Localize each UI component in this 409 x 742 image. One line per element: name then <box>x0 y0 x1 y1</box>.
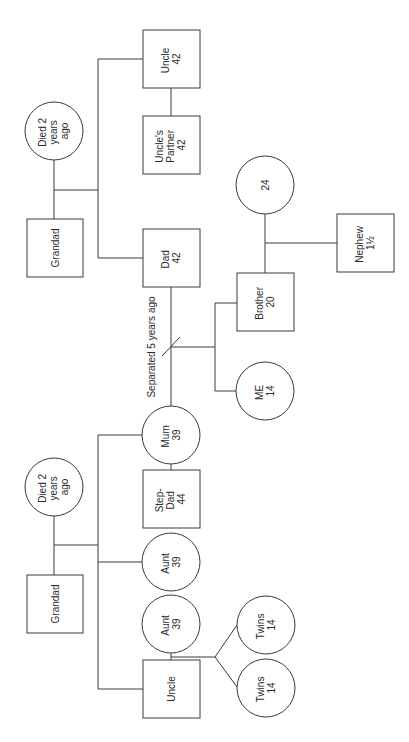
person-mum: Mum 39 <box>142 406 200 464</box>
svg-text:Grandad: Grandad <box>50 585 61 624</box>
person-aunt-2: Aunt 39 <box>142 595 200 653</box>
person-nephew: Nephew 1½ <box>337 214 394 272</box>
person-twin-2: Twins 14 <box>237 659 295 717</box>
person-dad: Dad 42 <box>143 229 200 287</box>
svg-text:24: 24 <box>260 179 271 191</box>
person-grandmother-maternal: Died 2 years ago <box>25 458 83 516</box>
separation-label: Separated 5 years ago <box>146 296 157 398</box>
person-uncles-partner: Uncle's Partner 42 <box>143 116 200 174</box>
person-step-dad: Step- Dad 44 <box>143 470 200 528</box>
person-aunt-1: Aunt 39 <box>142 533 200 591</box>
svg-text:Grandad: Grandad <box>50 229 61 268</box>
person-twin-1: Twins 14 <box>237 596 295 654</box>
person-uncle-paternal: Uncle 42 <box>143 30 200 88</box>
person-uncle-maternal: Uncle <box>143 660 200 718</box>
genogram-canvas: Separated 5 years ago Grandad Died 2 yea… <box>0 0 409 742</box>
person-grandmother-paternal: Died 2 years ago <box>25 102 83 160</box>
person-grandad-paternal: Grandad <box>27 219 83 277</box>
person-brother: Brother 20 <box>237 273 294 331</box>
person-me: ME 14 <box>236 362 294 420</box>
person-grandad-maternal: Grandad <box>27 575 83 633</box>
person-brothers-partner: 24 <box>236 156 294 214</box>
svg-text:Uncle: Uncle <box>166 676 177 702</box>
